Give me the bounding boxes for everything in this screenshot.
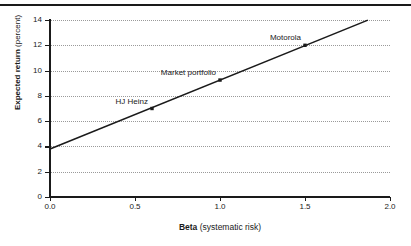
- gridline-horizontal: [50, 71, 390, 72]
- y-tick-mark: [45, 146, 49, 147]
- y-axis-title-bold: Expected return: [13, 49, 22, 110]
- x-tick-mark: [220, 197, 221, 201]
- x-tick-label: 1.0: [200, 202, 240, 211]
- gridline-horizontal: [50, 146, 390, 147]
- x-tick-label: 1.5: [285, 202, 325, 211]
- y-tick-mark: [45, 197, 49, 198]
- header-rule: [0, 4, 411, 6]
- point-label: Market portfolio: [161, 68, 216, 77]
- y-tick-label: 0: [16, 193, 42, 201]
- x-axis-title-rest: (systematic risk): [197, 222, 261, 232]
- chart-figure: 02468101214 0.00.51.01.52.0 Expected ret…: [0, 0, 411, 246]
- point-label: HJ Heinz: [116, 97, 148, 106]
- y-axis-line: [49, 19, 51, 198]
- plot-area: [50, 20, 390, 197]
- y-tick-label: 2: [16, 168, 42, 176]
- x-tick-label: 0.5: [115, 202, 155, 211]
- gridline-horizontal: [50, 96, 390, 97]
- y-tick-mark: [45, 96, 49, 97]
- y-tick-mark: [45, 71, 49, 72]
- x-tick-mark: [305, 197, 306, 201]
- gridline-horizontal: [50, 45, 390, 46]
- y-axis-title: Expected return (percent): [13, 3, 22, 123]
- x-tick-label: 0.0: [30, 202, 70, 211]
- gridline-horizontal: [50, 172, 390, 173]
- y-tick-label: 4: [16, 142, 42, 150]
- y-tick-mark: [45, 20, 49, 21]
- gridline-horizontal: [50, 20, 390, 21]
- point-label: Motorola: [270, 33, 301, 42]
- x-tick-mark: [50, 197, 51, 201]
- y-tick-mark: [45, 121, 49, 122]
- x-axis-title-bold: Beta: [179, 222, 197, 232]
- y-tick-mark: [45, 172, 49, 173]
- x-axis-title: Beta (systematic risk): [50, 222, 390, 232]
- y-axis-title-rest: (percent): [13, 15, 22, 49]
- y-tick-mark: [45, 45, 49, 46]
- x-tick-mark: [135, 197, 136, 201]
- x-tick-label: 2.0: [370, 202, 410, 211]
- gridline-horizontal: [50, 121, 390, 122]
- x-tick-mark: [390, 197, 391, 201]
